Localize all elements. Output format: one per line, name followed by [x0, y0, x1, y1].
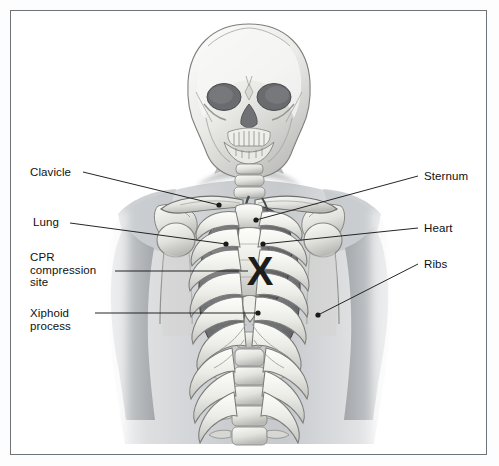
label-sternum: Sternum [424, 170, 468, 183]
figure-root: X ClavicleLungCPRcompressionsiteXiphoidp… [0, 0, 499, 466]
label-sternum-line-0: Sternum [424, 170, 468, 183]
label-heart-line-0: Heart [424, 222, 453, 235]
label-heart: Heart [424, 222, 453, 235]
label-cpr-compression-site-line-2: site [30, 276, 96, 289]
label-lung-line-0: Lung [33, 216, 59, 229]
cpr-x-glyph: X [247, 249, 274, 293]
label-ribs-line-0: Ribs [424, 258, 447, 271]
label-xiphoid-process-line-1: process [30, 320, 71, 333]
label-clavicle: Clavicle [30, 166, 71, 179]
label-xiphoid-process: Xiphoidprocess [30, 307, 71, 332]
label-cpr-compression-site: CPRcompressionsite [30, 251, 96, 289]
cpr-x-marker: X [247, 249, 274, 293]
label-ribs: Ribs [424, 258, 447, 271]
skull [188, 24, 310, 179]
label-xiphoid-process-line-0: Xiphoid [30, 307, 71, 320]
label-clavicle-line-0: Clavicle [30, 166, 71, 179]
label-cpr-compression-site-line-1: compression [30, 264, 96, 277]
label-cpr-compression-site-line-0: CPR [30, 251, 96, 264]
label-lung: Lung [33, 216, 59, 229]
